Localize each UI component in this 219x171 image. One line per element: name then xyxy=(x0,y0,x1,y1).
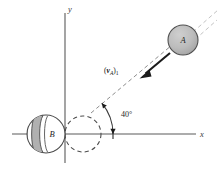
angle-arc xyxy=(102,103,116,134)
x-axis-label: x xyxy=(199,129,204,139)
velocity-index: 1 xyxy=(116,70,119,76)
physics-figure-container: B A (vA)1 40° x y xyxy=(0,0,219,171)
sphere-b-label: B xyxy=(49,129,54,139)
sphere-a: A xyxy=(168,25,198,55)
y-axis-label: y xyxy=(67,4,72,14)
impact-diagram: B A (vA)1 40° x y xyxy=(0,0,219,171)
velocity-arrow xyxy=(140,53,171,79)
sphere-a-label: A xyxy=(179,35,186,45)
line-of-impact xyxy=(91,45,172,113)
sphere-b: B xyxy=(27,115,65,153)
angle-label: 40° xyxy=(121,110,132,119)
velocity-label: (vA)1 xyxy=(104,66,119,76)
